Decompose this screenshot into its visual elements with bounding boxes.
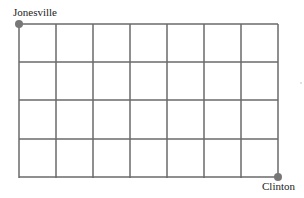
jonesville-point (15, 20, 23, 28)
street-grid (0, 0, 304, 198)
clinton-point (274, 173, 282, 181)
speck (300, 82, 302, 84)
grid-lines (19, 24, 278, 178)
